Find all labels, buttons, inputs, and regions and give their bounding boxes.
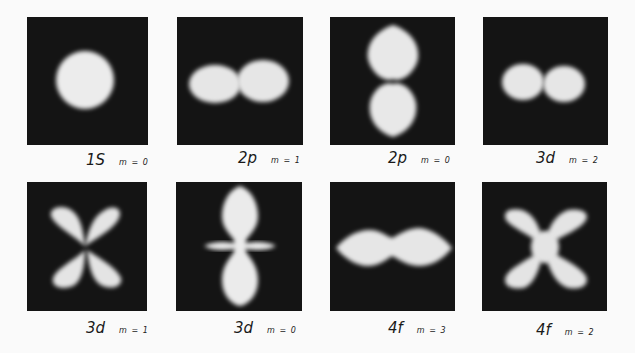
m-value: m = 2	[565, 328, 595, 337]
orbital-panel-4f-m2	[482, 182, 607, 311]
label-1s: 1Sm = 0	[86, 150, 149, 169]
orbital-name: 3d	[234, 319, 253, 337]
orbital-panel-3d-m2	[483, 17, 608, 145]
x-four-lobes-shape	[482, 182, 607, 311]
vertical-two-lobes-shape	[330, 17, 455, 145]
m-value: m = 0	[267, 326, 297, 335]
orbital-name: 2p	[388, 149, 407, 167]
label-4f-m2: 4fm = 2	[536, 320, 595, 339]
label-2p-m0: 2pm = 0	[388, 148, 451, 167]
horizontal-diamond-lobes-shape	[330, 182, 455, 311]
m-value: m = 0	[119, 158, 149, 167]
label-2p-m1: 2pm = 1	[238, 148, 301, 167]
m-value: m = 1	[271, 156, 301, 165]
orbital-name: 2p	[238, 149, 257, 167]
horizontal-two-lobes-shape	[177, 17, 303, 145]
orbital-panel-3d-m0	[176, 182, 302, 311]
orbital-panel-3d-m1	[27, 182, 147, 311]
orbital-panel-4f-m3	[330, 182, 455, 311]
label-4f-m3: 4fm = 3	[388, 318, 447, 337]
label-3d-m0: 3dm = 0	[234, 318, 297, 337]
horizontal-two-small-lobes-shape	[483, 17, 608, 145]
m-value: m = 3	[417, 326, 447, 335]
label-3d-m2: 3dm = 2	[536, 148, 599, 167]
orbital-name: 4f	[536, 321, 551, 339]
orbital-name: 1S	[86, 151, 105, 169]
m-value: m = 1	[119, 326, 149, 335]
label-3d-m1: 3dm = 1	[86, 318, 149, 337]
orbital-panel-2p-m0	[330, 17, 455, 145]
orbital-panel-2p-m1	[177, 17, 303, 145]
four-lobes-butterfly-shape	[27, 182, 147, 311]
sphere-orbital-shape	[27, 17, 148, 145]
orbital-name: 3d	[536, 149, 555, 167]
m-value: m = 2	[569, 156, 599, 165]
m-value: m = 0	[421, 156, 451, 165]
orbital-name: 4f	[388, 319, 403, 337]
two-lobes-with-ring-shape	[176, 182, 302, 311]
orbital-name: 3d	[86, 319, 105, 337]
orbital-panel-1s	[27, 17, 148, 145]
